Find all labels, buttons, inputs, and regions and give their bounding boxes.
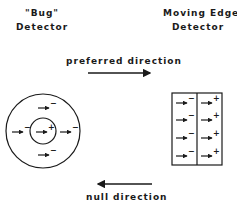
- edge-left-0-sign: −: [188, 94, 195, 103]
- edge-right-1-sign: +: [213, 111, 220, 120]
- edge-right-0-sign: +: [213, 94, 220, 103]
- edge-left-1-sign: −: [188, 111, 195, 120]
- bug-surround-3-sign: −: [50, 146, 57, 155]
- edge-right-2-sign: +: [213, 129, 220, 138]
- bug-center-sign: +: [48, 123, 55, 132]
- edge-right-3-sign: +: [213, 147, 220, 156]
- bug-surround-1-sign: −: [24, 123, 31, 132]
- edge-left-2-sign: −: [188, 129, 195, 138]
- bug-surround-0-sign: −: [50, 99, 57, 108]
- diagram-canvas: +−−−− −+−+−+−+: [0, 0, 237, 206]
- edge-left-3-sign: −: [188, 147, 195, 156]
- bug-detector-outer-circle: [6, 94, 80, 168]
- bug-surround-2-sign: −: [72, 123, 79, 132]
